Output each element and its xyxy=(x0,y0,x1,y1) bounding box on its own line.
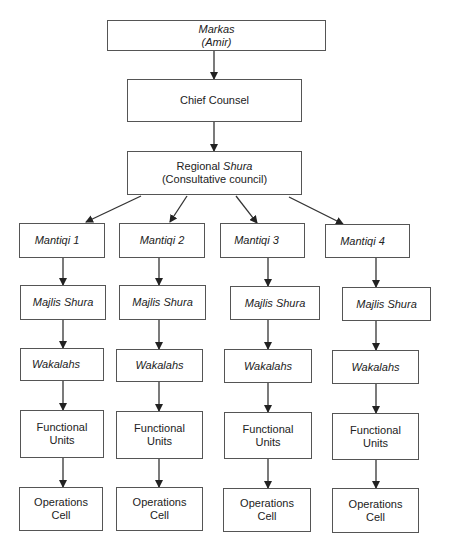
node-wakalahs-4: Wakalahs xyxy=(332,350,419,384)
node-functional-units-3: Functional Units xyxy=(224,412,312,459)
node-functional-units-4-line1: Functional xyxy=(350,424,401,437)
node-mantiqi-3-label: Mantiqi 3 xyxy=(234,234,279,247)
node-functional-units-1-line2: Units xyxy=(49,434,74,447)
node-mantiqi-3: Mantiqi 3 xyxy=(220,223,305,258)
node-chief-counsel: Chief Counsel xyxy=(127,79,302,122)
node-operations-cell-3-line1: Operations xyxy=(240,497,294,510)
node-operations-cell-4: Operations Cell xyxy=(332,488,419,533)
node-functional-units-2: Functional Units xyxy=(116,411,203,459)
node-chief-counsel-label: Chief Counsel xyxy=(180,94,249,107)
node-operations-cell-4-line2: Cell xyxy=(366,511,385,524)
node-wakalahs-3: Wakalahs xyxy=(224,349,312,383)
node-operations-cell-2: Operations Cell xyxy=(116,487,203,531)
node-wakalahs-1-label: Wakalahs xyxy=(32,358,80,371)
node-functional-units-1-line1: Functional xyxy=(37,421,88,434)
node-operations-cell-3: Operations Cell xyxy=(223,488,311,532)
node-wakalahs-3-label: Wakalahs xyxy=(244,360,292,373)
node-functional-units-3-line1: Functional xyxy=(243,423,294,436)
node-majlis-shura-4-label: Majlis Shura xyxy=(356,298,417,311)
node-functional-units-2-line1: Functional xyxy=(134,422,185,435)
node-wakalahs-1: Wakalahs xyxy=(20,348,104,381)
node-regional-shura: Regional Shura (Consultative council) xyxy=(127,151,302,195)
node-majlis-shura-4: Majlis Shura xyxy=(342,287,431,321)
node-mantiqi-4: Mantiqi 4 xyxy=(325,224,410,258)
node-mantiqi-1-label: Mantiqi 1 xyxy=(35,234,80,247)
node-operations-cell-1-line1: Operations xyxy=(34,496,88,509)
node-functional-units-3-line2: Units xyxy=(255,436,280,449)
node-majlis-shura-1: Majlis Shura xyxy=(20,285,106,320)
node-majlis-shura-1-label: Majlis Shura xyxy=(33,296,94,309)
node-markas: Markas (Amir) xyxy=(107,20,326,51)
node-markas-subtitle: (Amir) xyxy=(202,36,232,49)
node-majlis-shura-2-label: Majlis Shura xyxy=(132,296,193,309)
node-operations-cell-1: Operations Cell xyxy=(19,487,103,531)
node-majlis-shura-3: Majlis Shura xyxy=(230,286,320,320)
node-operations-cell-2-line2: Cell xyxy=(150,509,169,522)
node-operations-cell-4-line1: Operations xyxy=(349,498,403,511)
node-wakalahs-2-label: Wakalahs xyxy=(135,359,183,372)
node-functional-units-4-line2: Units xyxy=(363,437,388,450)
node-markas-title: Markas xyxy=(198,23,234,36)
node-functional-units-2-line2: Units xyxy=(147,435,172,448)
node-wakalahs-4-label: Wakalahs xyxy=(351,361,399,374)
node-majlis-shura-3-label: Majlis Shura xyxy=(245,297,306,310)
node-mantiqi-1: Mantiqi 1 xyxy=(19,223,105,258)
node-majlis-shura-2: Majlis Shura xyxy=(119,285,206,320)
node-functional-units-4: Functional Units xyxy=(332,413,419,460)
node-mantiqi-4-label: Mantiqi 4 xyxy=(340,235,385,248)
node-mantiqi-2-label: Mantiqi 2 xyxy=(140,234,185,247)
node-functional-units-1: Functional Units xyxy=(20,410,104,458)
shura-italic: Shura xyxy=(223,160,252,172)
regional-prefix: Regional xyxy=(177,160,223,172)
node-regional-shura-title: Regional Shura xyxy=(177,160,253,173)
node-mantiqi-2: Mantiqi 2 xyxy=(119,223,205,258)
node-regional-shura-subtitle: (Consultative council) xyxy=(162,173,267,186)
node-wakalahs-2: Wakalahs xyxy=(116,349,203,382)
node-operations-cell-1-line2: Cell xyxy=(52,509,71,522)
node-operations-cell-3-line2: Cell xyxy=(258,510,277,523)
node-operations-cell-2-line1: Operations xyxy=(133,496,187,509)
